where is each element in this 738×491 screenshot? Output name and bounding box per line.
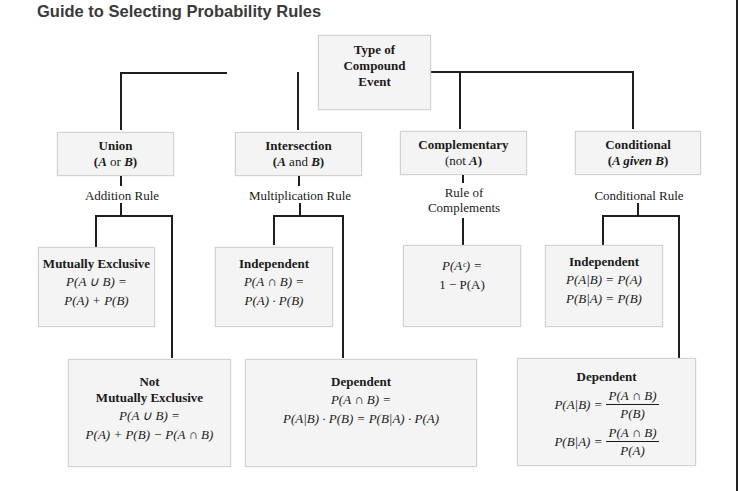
root-line-3: Event: [319, 74, 430, 90]
leaf-conditional-dependent: Dependent P(A|B) = P(A ∩ B) P(B) P(B|A) …: [517, 358, 696, 466]
connector: [678, 215, 680, 358]
rule-line-2: Complements: [412, 200, 516, 215]
connector: [622, 71, 634, 73]
var-a: A: [277, 154, 286, 169]
connector: [120, 176, 122, 186]
connector: [462, 218, 464, 245]
rule-complements: Rule of Complements: [412, 185, 516, 215]
formula-line: P(A ∩ B) =: [216, 272, 332, 291]
numerator: P(A ∩ B): [606, 387, 658, 405]
connector-word: (not: [445, 153, 469, 168]
denominator: P(B): [606, 405, 658, 422]
formula-line: 1 − P(A): [404, 275, 520, 294]
connector: [342, 215, 344, 358]
formula-line: P(A ∩ B) =: [246, 390, 476, 409]
connector: [462, 175, 464, 183]
root-node-type-of-compound-event: Type of Compound Event: [318, 35, 431, 110]
connector: [171, 215, 173, 358]
leaf-complement: P(Aᶜ) = 1 − P(A): [403, 245, 521, 327]
numerator: P(A ∩ B): [606, 424, 658, 442]
formula-line: P(B|A) = P(B): [546, 289, 662, 308]
root-line-2: Compound: [319, 58, 430, 74]
category-conditional: Conditional (A given B): [575, 131, 701, 175]
leaf-intersection-dependent: Dependent P(A ∩ B) = P(A|B) · P(B) = P(B…: [245, 359, 477, 467]
connector-word: or: [107, 154, 124, 169]
var-a-given-b: A given B: [612, 153, 664, 168]
formula-line: P(A) + P(B): [39, 291, 154, 310]
denominator: P(A): [606, 442, 658, 459]
leaf-mutually-exclusive: Mutually Exclusive P(A ∪ B) = P(A) + P(B…: [38, 247, 155, 327]
category-union: Union (A or B): [57, 132, 174, 176]
category-intersection: Intersection (A and B): [235, 132, 362, 176]
connector: [602, 215, 680, 217]
connector: [459, 71, 461, 129]
formula-line: P(A) + P(B) − P(A ∩ B): [69, 425, 230, 444]
leaf-heading: Not: [69, 374, 230, 390]
connector: [602, 215, 604, 245]
rule-conditional: Conditional Rule: [587, 188, 691, 203]
connector: [632, 71, 634, 129]
leaf-heading: Dependent: [246, 374, 476, 390]
paren: ): [664, 153, 668, 168]
category-title: Complementary: [401, 137, 526, 153]
leaf-intersection-independent: Independent P(A ∩ B) = P(A) · P(B): [215, 247, 333, 327]
connector: [95, 215, 97, 247]
category-title: Conditional: [576, 137, 700, 153]
leaf-heading: Mutually Exclusive: [39, 256, 154, 272]
formula-line: P(A ∪ B) =: [39, 272, 154, 291]
rule-line-1: Rule of: [412, 185, 516, 200]
leaf-heading: Independent: [216, 256, 332, 272]
category-title: Intersection: [236, 138, 361, 154]
paren: ): [478, 153, 482, 168]
formula-line: P(A ∪ B) =: [69, 406, 230, 425]
formula-row: P(B|A) = P(A ∩ B) P(A): [518, 424, 695, 459]
page-title: Guide to Selecting Probability Rules: [37, 2, 321, 21]
connector: [120, 72, 227, 74]
paren: ): [320, 154, 324, 169]
fraction: P(A ∩ B) P(A): [606, 424, 658, 459]
var-b: B: [311, 154, 320, 169]
category-title: Union: [58, 138, 173, 154]
rule-addition: Addition Rule: [72, 188, 172, 203]
connector: [273, 215, 344, 217]
connector: [120, 72, 122, 130]
formula-lhs: P(B|A) =: [554, 434, 602, 450]
leaf-heading: Independent: [546, 254, 662, 270]
root-line-1: Type of: [319, 42, 430, 58]
var-a: A: [98, 154, 107, 169]
formula-line: P(A) · P(B): [216, 291, 332, 310]
formula-row: P(A|B) = P(A ∩ B) P(B): [518, 387, 695, 422]
leaf-not-mutually-exclusive: Not Mutually Exclusive P(A ∪ B) = P(A) +…: [68, 359, 231, 467]
var-b: B: [124, 154, 133, 169]
category-complementary: Complementary (not A): [400, 131, 527, 175]
formula-line: P(A|B) · P(B) = P(B|A) · P(A): [246, 409, 476, 428]
leaf-heading: Mutually Exclusive: [69, 390, 230, 406]
paren: ): [133, 154, 137, 169]
leaf-heading: Dependent: [518, 369, 695, 385]
formula-lhs: P(A|B) =: [554, 397, 602, 413]
connector: [273, 215, 275, 245]
formula-line: P(A|B) = P(A): [546, 270, 662, 289]
connector: [297, 72, 299, 130]
leaf-conditional-independent: Independent P(A|B) = P(A) P(B|A) = P(B): [545, 245, 663, 327]
connector: [298, 176, 300, 186]
var-a: A: [469, 153, 478, 168]
formula-line: P(Aᶜ) =: [404, 256, 520, 275]
rule-multiplication: Multiplication Rule: [245, 188, 355, 203]
fraction: P(A ∩ B) P(B): [606, 387, 658, 422]
connector-word: and: [286, 154, 311, 169]
connector: [95, 215, 173, 217]
